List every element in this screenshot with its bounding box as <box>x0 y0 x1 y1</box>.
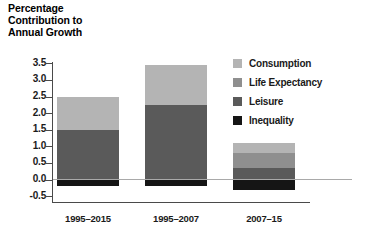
y-axis-line <box>52 62 53 203</box>
y-axis-tick <box>45 130 52 131</box>
y-axis-tick <box>45 80 52 81</box>
legend-swatch-icon <box>233 116 242 125</box>
x-axis-category-label: 1995–2007 <box>126 213 226 224</box>
y-axis-tick <box>45 146 52 147</box>
y-axis-tick-label: 2.0 <box>33 107 46 118</box>
legend-item[interactable]: Inequality <box>233 111 373 130</box>
y-axis-tick <box>45 180 52 181</box>
bar-segment <box>145 65 207 105</box>
bar-segment-negative <box>233 180 295 190</box>
legend-swatch-icon <box>233 59 242 68</box>
legend-label: Leisure <box>249 96 283 107</box>
bar-segment <box>233 153 295 168</box>
y-axis-tick <box>45 63 52 64</box>
bar-segment <box>233 168 295 180</box>
chart-root: Percentage Contribution to Annual Growth… <box>0 0 375 238</box>
legend-label: Life Expectancy <box>249 77 322 88</box>
y-axis-tick <box>45 113 52 114</box>
y-axis-tick-label: 3.5 <box>33 57 46 68</box>
legend-label: Inequality <box>249 115 294 126</box>
x-axis-category-label: 2007–15 <box>214 213 314 224</box>
y-axis-tick-label: 0.5 <box>33 156 46 167</box>
bar-column[interactable] <box>57 62 119 203</box>
y-axis-tick-label: 1.5 <box>33 123 46 134</box>
y-axis-tick-label: -0.5 <box>30 190 46 201</box>
legend-label: Consumption <box>249 58 311 69</box>
x-axis-category-label: 1995–2015 <box>38 213 138 224</box>
y-axis-tick-label: 3.0 <box>33 73 46 84</box>
y-axis-tick <box>45 196 52 197</box>
bar-segment <box>57 97 119 130</box>
chart-legend: ConsumptionLife ExpectancyLeisureInequal… <box>233 54 373 130</box>
bar-column[interactable] <box>145 62 207 203</box>
legend-swatch-icon <box>233 97 242 106</box>
y-axis-tick-label: 2.5 <box>33 90 46 101</box>
y-axis-tick-label: 0.0 <box>33 173 46 184</box>
y-axis-tick <box>45 97 52 98</box>
bar-segment-negative <box>145 180 207 187</box>
bar-segment-negative <box>57 180 119 187</box>
bar-segment <box>57 130 119 180</box>
legend-item[interactable]: Leisure <box>233 92 373 111</box>
legend-item[interactable]: Life Expectancy <box>233 73 373 92</box>
y-axis-tick-label: 1.0 <box>33 140 46 151</box>
legend-swatch-icon <box>233 78 242 87</box>
bar-segment <box>233 143 295 153</box>
y-axis-tick <box>45 163 52 164</box>
chart-title: Percentage Contribution to Annual Growth <box>8 3 158 38</box>
bar-segment <box>145 105 207 180</box>
y-axis-tick-labels: 3.53.02.52.01.51.00.50.0-0.5 <box>0 62 46 203</box>
legend-item[interactable]: Consumption <box>233 54 373 73</box>
